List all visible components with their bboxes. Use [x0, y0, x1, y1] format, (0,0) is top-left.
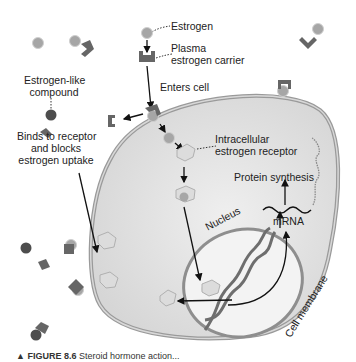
caption-figure-number: FIGURE 8.6 — [27, 351, 76, 361]
label-protein-synthesis: Protein synthesis — [234, 171, 314, 183]
label-intracellular-1: Intracellular — [215, 133, 269, 145]
label-plasma-carrier-2: estrogen carrier — [171, 54, 245, 66]
label-binds-3: estrogen uptake — [17, 154, 95, 166]
figure-caption: ▲ FIGURE 8.6 Steroid hormone action... — [16, 351, 180, 361]
label-intracellular-2: estrogen receptor — [215, 145, 297, 157]
label-binds-2: and blocks — [17, 142, 95, 154]
label-binds-1: Binds to receptor — [17, 130, 95, 142]
label-estrogen-like-1: Estrogen-like — [24, 74, 84, 86]
label-estrogen-like-2: compound — [24, 86, 84, 98]
label-mrna: mRNA — [273, 215, 304, 227]
caption-text: Steroid hormone action... — [79, 351, 180, 361]
label-plasma-carrier-1: Plasma — [171, 42, 206, 54]
caption-marker: ▲ — [16, 351, 25, 361]
label-estrogen: Estrogen — [171, 20, 213, 32]
label-enters-cell: Enters cell — [160, 81, 209, 93]
